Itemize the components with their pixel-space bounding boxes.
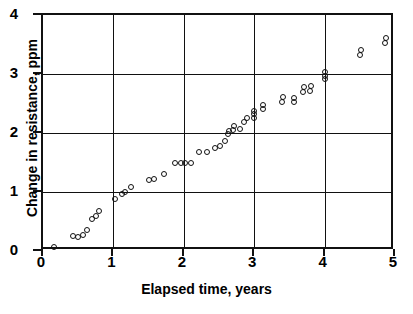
plot-area <box>41 13 393 249</box>
data-point <box>358 47 364 53</box>
data-point <box>280 94 286 100</box>
x-tick-label-1: 1 <box>96 254 126 269</box>
y-tick-label-4: 4 <box>10 6 18 21</box>
data-point <box>244 115 250 121</box>
data-point <box>112 196 118 202</box>
x-tick-label-5: 5 <box>378 254 408 269</box>
scatter-chart-figure: 01234 012345 Elapsed time, years Change … <box>0 0 413 314</box>
data-point <box>357 52 363 58</box>
data-point <box>291 95 297 101</box>
y-tick-label-1: 1 <box>10 183 18 198</box>
y-tick-label-0: 0 <box>10 242 18 257</box>
data-point <box>196 149 202 155</box>
gridline-vertical-2 <box>184 15 185 247</box>
gridline-horizontal-1 <box>43 192 391 193</box>
data-point <box>84 227 90 233</box>
x-axis-label: Elapsed time, years <box>0 281 413 297</box>
data-point <box>51 244 57 250</box>
data-point <box>217 143 223 149</box>
y-tick-label-2: 2 <box>10 124 18 139</box>
gridline-horizontal-3 <box>43 74 391 75</box>
data-point <box>204 149 210 155</box>
gridline-vertical-3 <box>254 15 255 247</box>
data-point <box>251 108 257 114</box>
data-point <box>188 160 194 166</box>
x-tick-label-0: 0 <box>26 254 56 269</box>
y-axis-label: Change in resistance, ppm <box>24 10 40 246</box>
gridline-horizontal-2 <box>43 133 391 134</box>
data-point <box>161 171 167 177</box>
data-point <box>80 232 86 238</box>
data-point <box>237 126 243 132</box>
data-point <box>308 83 314 89</box>
data-point <box>322 69 328 75</box>
y-tick-label-3: 3 <box>10 65 18 80</box>
x-tick-label-2: 2 <box>167 254 197 269</box>
data-point <box>96 208 102 214</box>
data-point <box>128 184 134 190</box>
gridline-vertical-4 <box>325 15 326 247</box>
data-point <box>122 189 128 195</box>
data-point <box>383 35 389 41</box>
data-point <box>151 176 157 182</box>
x-tick-label-3: 3 <box>237 254 267 269</box>
gridline-vertical-1 <box>113 15 114 247</box>
x-tick-label-4: 4 <box>308 254 338 269</box>
data-point <box>93 213 99 219</box>
data-point <box>222 138 228 144</box>
y-tick-mark-0 <box>33 249 41 251</box>
